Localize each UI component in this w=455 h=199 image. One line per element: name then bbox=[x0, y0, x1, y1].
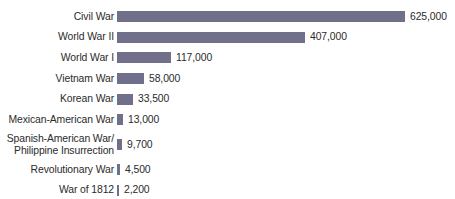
bar bbox=[117, 52, 171, 63]
value-label: 58,000 bbox=[144, 73, 180, 85]
bar-chart: Civil War 625,000 World War II 407,000 W… bbox=[0, 0, 455, 199]
category-label: World War I bbox=[0, 52, 117, 64]
category-label: Civil War bbox=[0, 11, 117, 23]
value-label: 9,700 bbox=[122, 139, 153, 151]
bar bbox=[117, 11, 405, 22]
bar-row: Civil War 625,000 bbox=[0, 6, 455, 27]
bar-row: Vietnam War 58,000 bbox=[0, 68, 455, 89]
bar bbox=[117, 32, 305, 43]
category-label: War of 1812 bbox=[0, 184, 117, 196]
category-label: Vietnam War bbox=[0, 73, 117, 85]
bar-zone: 4,500 bbox=[117, 164, 455, 176]
bar-row: Revolutionary War 4,500 bbox=[0, 159, 455, 180]
bar-row: World War I 117,000 bbox=[0, 47, 455, 68]
bar-chart-rows: Civil War 625,000 World War II 407,000 W… bbox=[0, 6, 455, 199]
bar-row: Korean War 33,500 bbox=[0, 89, 455, 110]
bar-zone: 625,000 bbox=[117, 11, 455, 23]
bar-row: Spanish-American War/ Philippine Insurre… bbox=[0, 130, 455, 159]
bar-row: War of 1812 2,200 bbox=[0, 180, 455, 199]
bar-zone: 2,200 bbox=[117, 184, 455, 196]
value-label: 117,000 bbox=[171, 52, 212, 64]
category-label: Korean War bbox=[0, 93, 117, 105]
bar-zone: 33,500 bbox=[117, 93, 455, 105]
value-label: 625,000 bbox=[405, 11, 447, 23]
category-label: Spanish-American War/ Philippine Insurre… bbox=[0, 133, 117, 156]
category-label: World War II bbox=[0, 31, 117, 43]
category-label: Mexican-American War bbox=[0, 114, 117, 126]
bar bbox=[117, 94, 133, 105]
bar-zone: 9,700 bbox=[117, 139, 455, 151]
bar-zone: 117,000 bbox=[117, 52, 455, 64]
value-label: 33,500 bbox=[133, 93, 169, 105]
bar-row: Mexican-American War 13,000 bbox=[0, 109, 455, 130]
bar-row: World War II 407,000 bbox=[0, 27, 455, 48]
value-label: 2,200 bbox=[119, 184, 150, 196]
bar-zone: 13,000 bbox=[117, 114, 455, 126]
value-label: 407,000 bbox=[305, 31, 347, 43]
value-label: 13,000 bbox=[123, 114, 159, 126]
category-label: Revolutionary War bbox=[0, 164, 117, 176]
bar-zone: 407,000 bbox=[117, 31, 455, 43]
value-label: 4,500 bbox=[120, 164, 151, 176]
bar bbox=[117, 73, 144, 84]
bar-zone: 58,000 bbox=[117, 73, 455, 85]
